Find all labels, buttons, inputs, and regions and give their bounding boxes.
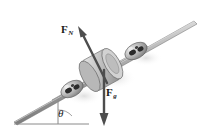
incline-angle-label: θ — [58, 108, 63, 119]
gravity-force-label: Fg — [106, 87, 117, 100]
gravity-force-symbol: F — [106, 86, 113, 98]
normal-force-subscript: N — [68, 29, 73, 37]
normal-force-label: FN — [61, 24, 73, 37]
normal-force-symbol: F — [61, 23, 68, 35]
physics-diagram-figure: FN Fg θ — [0, 0, 206, 133]
diagram-canvas — [0, 0, 206, 133]
gravity-force-subscript: g — [113, 92, 117, 100]
